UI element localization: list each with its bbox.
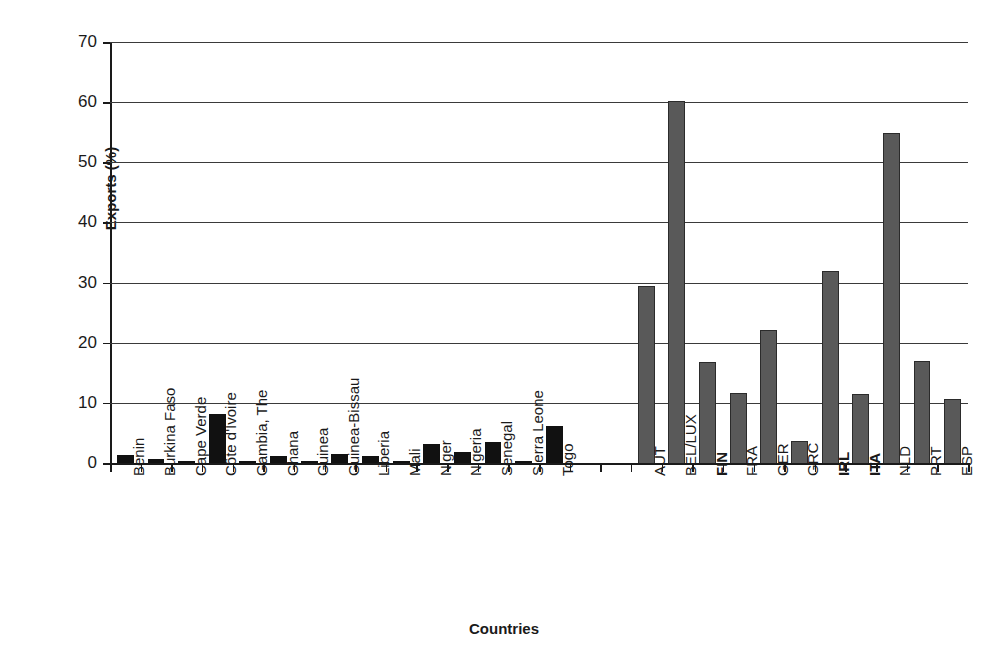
x-axis-label: ESP	[959, 446, 974, 476]
x-axis-title: Countries	[0, 620, 1008, 637]
x-axis-label: Senegal	[499, 421, 514, 476]
y-tick-mark-40	[103, 222, 110, 224]
bar-fin	[699, 362, 716, 463]
bar-aut	[638, 286, 655, 463]
x-axis-label: Cape Verde	[193, 397, 208, 476]
x-axis-label: GER	[775, 443, 790, 476]
x-axis-label: FRA	[744, 446, 759, 476]
x-axis-label: IRL	[836, 452, 851, 476]
y-tick-mark-50	[103, 162, 110, 164]
x-axis-label: Burkina Faso	[162, 388, 177, 476]
x-axis-label: Niger	[438, 440, 453, 476]
y-tick-mark-60	[103, 102, 110, 104]
x-tick-mark	[600, 463, 602, 472]
y-tick-mark-20	[103, 343, 110, 345]
x-axis-label: PRT	[928, 446, 943, 476]
x-axis-label: Nigeria	[468, 428, 483, 476]
y-tick-mark-0	[103, 463, 110, 465]
x-axis-label: AUT	[652, 446, 667, 476]
x-axis-label: Mali	[407, 448, 422, 476]
x-tick-mark	[110, 463, 112, 472]
x-axis-label: Guinea	[315, 428, 330, 476]
x-axis-label: Guinea-Bissau	[346, 378, 361, 476]
x-axis-label: Gambia, The	[254, 390, 269, 476]
y-tick-mark-70	[103, 42, 110, 44]
bar-bel-lux	[668, 101, 685, 463]
x-tick-mark	[631, 463, 633, 472]
x-axis-label: Côte d'Ivoire	[223, 392, 238, 476]
y-tick-label: 30	[37, 274, 97, 291]
y-tick-label: 0	[37, 454, 97, 471]
x-axis-label: Liberia	[376, 431, 391, 476]
y-tick-label: 40	[37, 213, 97, 230]
x-axis-label: ITA	[867, 453, 882, 476]
x-axis-label: Ghana	[285, 431, 300, 476]
y-tick-label: 70	[37, 33, 97, 50]
bar-nld	[883, 133, 900, 463]
x-axis-label: Sierra Leone	[530, 390, 545, 476]
x-axis-label: GRC	[805, 443, 820, 476]
x-axis-label: Benin	[131, 438, 146, 476]
y-tick-mark-30	[103, 283, 110, 285]
y-tick-label: 50	[37, 153, 97, 170]
y-tick-mark-10	[103, 403, 110, 405]
y-tick-label: 10	[37, 394, 97, 411]
x-axis-label: BEL/LUX	[683, 414, 698, 476]
y-tick-label: 60	[37, 93, 97, 110]
x-axis-label: FIN	[714, 452, 729, 476]
x-axis-label: Togo	[560, 443, 575, 476]
x-axis-label: NLD	[897, 446, 912, 476]
bar-chart: Exports (%) 010203040506070 BeninBurkina…	[0, 0, 1008, 664]
y-tick-label: 20	[37, 334, 97, 351]
bar-irl	[822, 271, 839, 463]
